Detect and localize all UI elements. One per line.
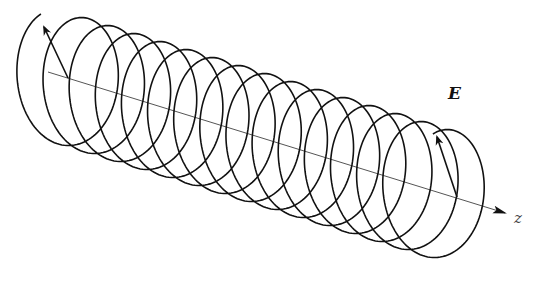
axis-label-z: z (513, 209, 522, 227)
end-field-vector-arrow (437, 137, 457, 197)
field-label-E: E (447, 83, 462, 103)
start-field-vector-arrow (44, 27, 68, 78)
helix-curve (17, 14, 484, 258)
polarization-helix-diagram: E z (0, 0, 548, 286)
